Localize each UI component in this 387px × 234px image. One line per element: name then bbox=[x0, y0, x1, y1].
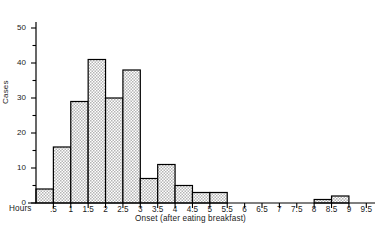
histogram-bar bbox=[36, 189, 53, 203]
bar-series bbox=[36, 60, 349, 204]
histogram-bar bbox=[53, 147, 70, 203]
histogram-bar bbox=[88, 60, 105, 204]
histogram-bar bbox=[192, 193, 209, 204]
plot-area bbox=[0, 0, 387, 234]
histogram-bar bbox=[106, 98, 123, 203]
histogram-bar bbox=[140, 179, 157, 204]
histogram-bar bbox=[158, 165, 175, 204]
histogram-bar bbox=[210, 193, 227, 204]
histogram-figure: Cases Onset (after eating breakfast) Hou… bbox=[0, 0, 387, 234]
histogram-bar bbox=[332, 196, 349, 203]
histogram-bar bbox=[71, 102, 88, 204]
histogram-bar bbox=[123, 70, 140, 203]
histogram-bar bbox=[175, 186, 192, 204]
